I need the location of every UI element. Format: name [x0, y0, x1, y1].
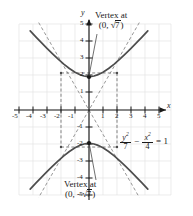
hyperbola-figure: -5 -4 -3 -2 -1 1 2 3 4 5 5 4 3 2 1 -1 -2…	[0, 0, 193, 216]
top-vertex-suffix: )	[121, 20, 124, 30]
equation-equals: = 1	[156, 137, 168, 146]
top-vertex-prefix: (0,	[99, 20, 111, 30]
corner-dot	[60, 146, 62, 148]
top-vertex-annotation: Vertex at (0, √7)	[95, 11, 127, 31]
term2-numerator: x2	[142, 132, 152, 142]
y-axis-label: y	[81, 9, 85, 17]
x-axis-label: x	[167, 102, 171, 110]
top-vertex-line2: (0, √7)	[95, 20, 127, 30]
x-tick-label-5: 5	[157, 113, 160, 120]
y-tick-label-5: 5	[80, 20, 83, 27]
leader-line-top	[89, 34, 97, 76]
x-tick-label-2: 2	[115, 113, 118, 120]
bottom-vertex-annotation: Vertex at (0, −√7)	[64, 180, 96, 200]
x-tick-label--3: -3	[40, 113, 45, 120]
vertex-dot-bottom	[87, 141, 91, 145]
term2-num-exponent: 2	[148, 131, 151, 137]
y-tick-label--1: -1	[77, 123, 82, 130]
y-tick-label--2: -2	[77, 140, 82, 147]
y-tick-label-4: 4	[80, 37, 83, 44]
graph-canvas	[0, 0, 193, 216]
corner-dot	[60, 72, 62, 74]
x-tick-label--1: -1	[68, 113, 73, 120]
y-tick-label-1: 1	[80, 88, 83, 95]
bottom-vertex-suffix: )	[92, 189, 95, 199]
y-tick-label--3: -3	[77, 157, 82, 164]
term1-numerator: y2	[120, 132, 130, 142]
x-axis-arrow	[160, 107, 167, 112]
x-tick-label-3: 3	[129, 113, 132, 120]
x-tick-label-4: 4	[143, 113, 146, 120]
y-tick-label-2: 2	[80, 71, 83, 78]
x-tick-label--5: -5	[12, 113, 17, 120]
equation-operator: −	[134, 137, 139, 146]
term1-denominator: 7	[122, 143, 130, 151]
hyperbola-equation: y2 7 − x2 4 = 1	[120, 132, 168, 151]
equation-term-1: y2 7	[120, 132, 131, 151]
x-tick-label--4: -4	[26, 113, 31, 120]
term1-num-exponent: 2	[126, 131, 129, 137]
axis-lines	[14, 20, 166, 200]
corner-dot	[116, 72, 118, 74]
y-axis-arrow	[86, 19, 91, 26]
leader-lines	[89, 34, 97, 180]
term2-denominator: 4	[144, 143, 152, 151]
x-tick-label-1: 1	[101, 113, 104, 120]
equation-term-2: x2 4	[142, 132, 153, 151]
top-vertex-line1: Vertex at	[95, 10, 127, 20]
bottom-vertex-line1: Vertex at	[64, 179, 96, 189]
y-tick-label-3: 3	[80, 54, 83, 61]
corner-dot	[116, 146, 118, 148]
bottom-vertex-prefix: (0, −	[65, 189, 82, 199]
leader-line-bottom	[90, 145, 97, 180]
x-tick-label--2: -2	[54, 113, 59, 120]
bottom-vertex-line2: (0, −√7)	[64, 189, 96, 199]
